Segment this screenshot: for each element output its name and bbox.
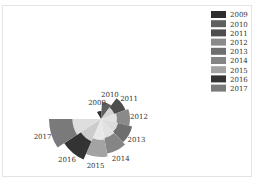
sector-2009[interactable]: [97, 111, 101, 119]
legend-label-2014[interactable]: 2014: [230, 57, 248, 65]
sector-label-2009: 2009: [88, 99, 106, 107]
legend: 200920102011201220132014201520162017: [211, 11, 248, 93]
sector-label-2011: 2011: [120, 95, 138, 103]
sector-label-2015: 2015: [87, 162, 105, 170]
legend-swatch-2014[interactable]: [211, 57, 226, 64]
polar-bar-chart: 200920102011201220132014201520162017 200…: [0, 0, 256, 184]
legend-swatch-2017[interactable]: [211, 85, 226, 92]
sector-label-2013: 2013: [128, 136, 146, 144]
sector-label-2010: 2010: [101, 91, 119, 99]
legend-label-2009[interactable]: 2009: [230, 11, 248, 19]
legend-label-2015[interactable]: 2015: [230, 67, 248, 75]
legend-swatch-2012[interactable]: [211, 39, 226, 46]
sector-label-2017: 2017: [34, 133, 52, 141]
legend-label-2013[interactable]: 2013: [230, 48, 248, 56]
legend-swatch-2015[interactable]: [211, 66, 226, 73]
legend-label-2012[interactable]: 2012: [230, 39, 248, 47]
legend-swatch-2011[interactable]: [211, 29, 226, 36]
legend-label-2016[interactable]: 2016: [230, 76, 248, 84]
legend-label-2017[interactable]: 2017: [230, 85, 248, 93]
legend-swatch-2009[interactable]: [211, 11, 226, 18]
legend-label-2010[interactable]: 2010: [230, 21, 248, 29]
sector-label-2014: 2014: [112, 155, 130, 163]
sector-label-2012: 2012: [130, 113, 148, 121]
legend-swatch-2010[interactable]: [211, 20, 226, 27]
legend-label-2011[interactable]: 2011: [230, 30, 248, 38]
legend-swatch-2013[interactable]: [211, 48, 226, 55]
legend-swatch-2016[interactable]: [211, 75, 226, 82]
chart-sectors: [49, 98, 132, 159]
sector-label-2016: 2016: [58, 156, 76, 164]
